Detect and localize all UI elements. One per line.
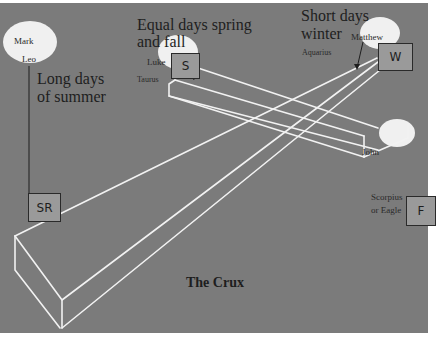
winter-box: W — [378, 43, 413, 71]
fall-box: F — [406, 196, 436, 226]
apostle-matthew-label: Matthew — [351, 33, 383, 42]
summer-caption-line2: of summer — [37, 89, 106, 106]
sign-eagle-label: or Eagle — [371, 206, 401, 215]
equinox-caption-line1: Equal days spring — [137, 17, 252, 34]
fall-box-label: F — [418, 204, 425, 218]
sign-aquarius-label: Aquarius — [302, 49, 331, 57]
winter-box-label: W — [390, 50, 402, 64]
summer-caption-line1: Long days — [37, 71, 104, 88]
summer-rise-box: SR — [28, 193, 61, 222]
spring-box-label: S — [182, 59, 190, 73]
sign-taurus-label: Taurus — [137, 76, 159, 84]
sign-scorpius-label: Scorpius — [371, 193, 403, 202]
winter-caption-line1: Short days — [301, 8, 369, 25]
summer-rise-box-label: SR — [37, 201, 53, 215]
apostle-john-label: John — [362, 148, 379, 157]
winter-caption-line2: winter — [301, 26, 342, 43]
apostle-luke-label: Luke — [147, 58, 166, 67]
diagram-title: The Crux — [186, 276, 244, 291]
equinox-caption-line2: and fall — [137, 34, 185, 51]
apostle-mark-label: Mark — [14, 37, 34, 46]
sign-leo-label: Leo — [22, 55, 36, 64]
spring-box: S — [171, 53, 200, 79]
